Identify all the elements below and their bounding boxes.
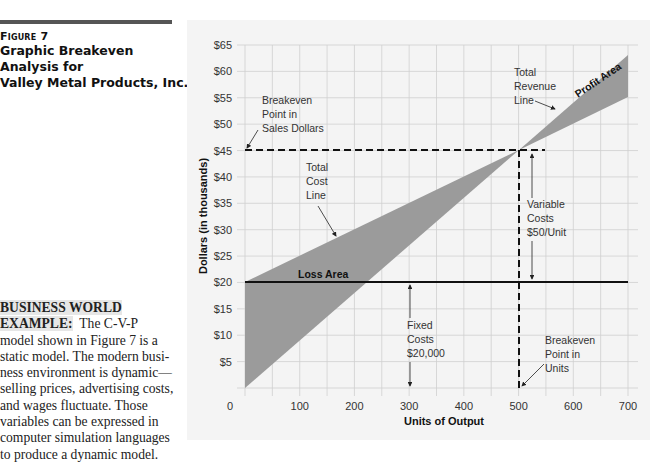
y-tick-label: $55: [214, 92, 232, 104]
y-tick-label: $15: [214, 303, 232, 315]
loss-area-label: Loss Area: [298, 268, 349, 280]
x-tick-label: 700: [619, 400, 637, 412]
y-tick-label: $20: [214, 276, 232, 288]
y-axis-ticks: $5$10$15$20$25$30$35$40$45$50$55$60$65: [214, 39, 232, 368]
x-tick-label: 400: [455, 400, 473, 412]
x-tick-label: 300: [400, 400, 418, 412]
x-tick-label: 500: [509, 400, 527, 412]
y-tick-label: $5: [220, 356, 232, 368]
y-tick-label: $50: [214, 118, 232, 130]
x-tick-label: 200: [345, 400, 363, 412]
y-axis-label: Dollars (in thousands): [197, 158, 209, 274]
x-tick-label: 0: [227, 400, 233, 412]
y-tick-label: $35: [214, 197, 232, 209]
x-tick-label: 100: [291, 400, 309, 412]
y-tick-label: $45: [214, 145, 232, 157]
annotation-total-revenue: Total Revenue Line: [514, 66, 559, 106]
annotation-breakeven-dollars: Breakeven Point in Sales Dollars: [262, 94, 324, 134]
arrow-total-revenue: [535, 101, 555, 109]
y-tick-label: $40: [214, 171, 232, 183]
y-tick-label: $30: [214, 224, 232, 236]
y-tick-label: $60: [214, 65, 232, 77]
annotation-fixed-costs: Fixed Costs $20,000: [407, 319, 445, 359]
annotation-variable-costs: Variable Costs $50/Unit: [527, 198, 568, 238]
arrow-breakeven-dollars: [247, 130, 258, 148]
y-tick-label: $65: [214, 39, 232, 51]
x-tick-label: 600: [564, 400, 582, 412]
x-axis-label: Units of Output: [404, 415, 484, 427]
y-tick-label: $10: [214, 329, 232, 341]
annotation-breakeven-units: Breakeven Point in Units: [545, 334, 598, 374]
x-axis-ticks: 0100200300400500600700: [227, 400, 637, 412]
arrow-breakeven-units: [522, 364, 544, 386]
y-tick-label: $25: [214, 250, 232, 262]
